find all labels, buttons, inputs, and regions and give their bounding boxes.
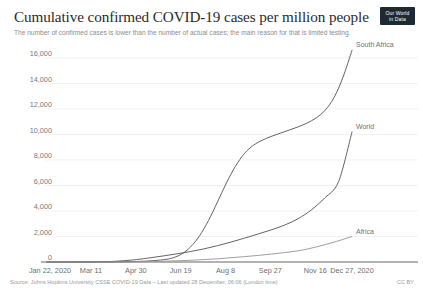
y-tick-label: 8,000: [8, 151, 52, 160]
series-label-south-africa: South Africa: [356, 41, 394, 48]
x-tick-label: Jun 19: [170, 266, 192, 275]
y-tick-label: 16,000: [8, 49, 52, 58]
x-tick-label: Dec 27, 2020: [330, 266, 373, 275]
x-tick-label: Sep 27: [259, 266, 282, 275]
y-tick-label: 6,000: [8, 177, 52, 186]
x-tick-label: Apr 30: [125, 266, 147, 275]
x-tick-label: Nov 16: [304, 266, 327, 275]
series-label-world: World: [356, 123, 374, 130]
source-note: Source: Johns Hopkins University CSSE CO…: [10, 279, 278, 285]
y-tick-label: 12,000: [8, 100, 52, 109]
series-line-south-africa[interactable]: [47, 50, 352, 262]
series-lines: [47, 50, 352, 262]
chart-container: Cumulative confirmed COVID-19 cases per …: [0, 0, 423, 299]
y-tick-label: 2,000: [8, 228, 52, 237]
series-line-africa[interactable]: [47, 237, 352, 263]
y-tick-label: 14,000: [8, 75, 52, 84]
license-note[interactable]: CC BY: [397, 279, 414, 285]
y-tick-label: 4,000: [8, 202, 52, 211]
y-tick-label: 10,000: [8, 126, 52, 135]
series-line-world[interactable]: [47, 132, 352, 262]
x-tick-label: Aug 8: [216, 266, 235, 275]
y-tick-label: 0: [8, 253, 52, 262]
series-label-africa: Africa: [356, 228, 374, 235]
x-tick-label: Mar 11: [80, 266, 102, 275]
x-tick-label: Jan 22, 2020: [29, 266, 71, 275]
